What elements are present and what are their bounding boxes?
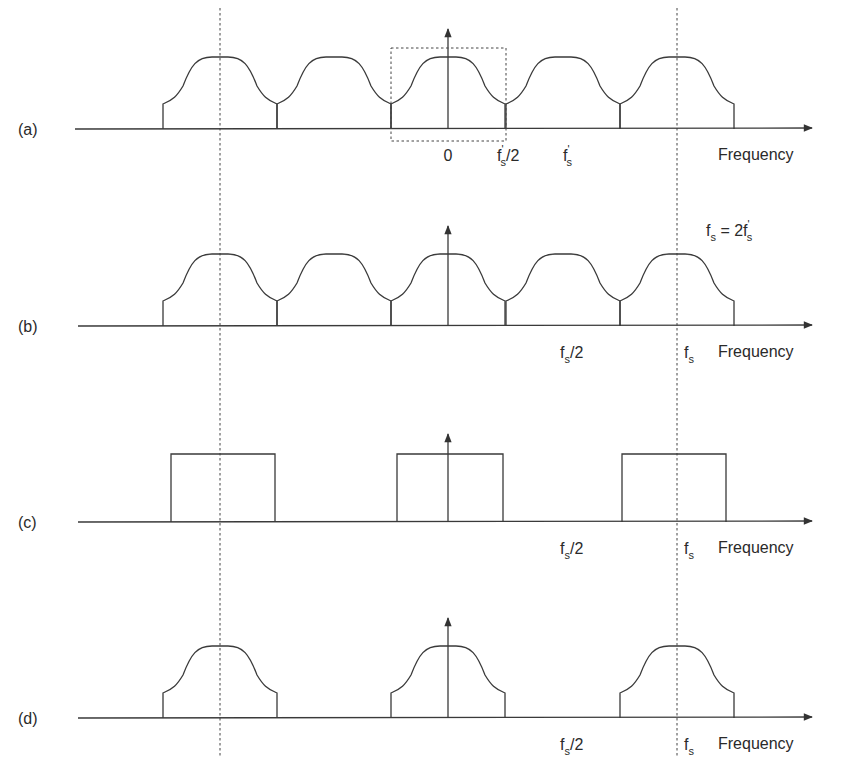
- axis-label-frequency: Frequency: [718, 146, 794, 163]
- sampling-spectrum-diagram: (a)Frequency0f's/2f's(b)Frequencyfs/2fs(…: [0, 0, 846, 777]
- panel-d: (d)Frequencyfs/2fs: [18, 618, 812, 757]
- tick-label: f's: [563, 143, 573, 168]
- tick-label: fs/2: [560, 344, 583, 365]
- axis-label-frequency: Frequency: [718, 343, 794, 360]
- frequency-axis: [78, 521, 812, 522]
- ideal-filter-band: [171, 454, 275, 522]
- frequency-axis: [78, 325, 812, 326]
- panel-label: (a): [18, 121, 38, 138]
- tick-label: fs: [684, 736, 694, 757]
- tick-label: fs: [684, 540, 694, 561]
- tick-label: f's/2: [497, 143, 520, 168]
- panel-label: (b): [18, 318, 38, 335]
- ideal-filter-band: [622, 454, 726, 522]
- tick-label: fs/2: [560, 540, 583, 561]
- ideal-filter-band: [397, 454, 503, 522]
- spectrum-replica: [620, 646, 734, 718]
- spectrum-replica: [163, 646, 277, 718]
- axis-label-frequency: Frequency: [718, 539, 794, 556]
- panel-label: (d): [18, 710, 38, 727]
- frequency-axis: [78, 717, 812, 718]
- panel-c: (c)Frequencyfs/2fs: [18, 434, 812, 561]
- spectrum-replica: [506, 57, 620, 129]
- relation-label: fs = 2f's: [706, 218, 753, 243]
- axis-label-frequency: Frequency: [718, 735, 794, 752]
- panel-b: (b)Frequencyfs/2fs: [18, 226, 812, 365]
- sampling-relation: fs = 2f's: [706, 218, 753, 243]
- spectrum-replica: [277, 57, 391, 129]
- frequency-axis: [75, 128, 812, 129]
- tick-label: fs/2: [560, 736, 583, 757]
- spectrum-replica: [277, 254, 391, 326]
- spectrum-replica: [506, 254, 620, 326]
- tick-label: fs: [684, 344, 694, 365]
- tick-label: 0: [444, 147, 453, 164]
- panel-a: (a)Frequency0f's/2f's: [18, 29, 812, 168]
- panel-label: (c): [18, 514, 37, 531]
- panels: (a)Frequency0f's/2f's(b)Frequencyfs/2fs(…: [18, 29, 812, 757]
